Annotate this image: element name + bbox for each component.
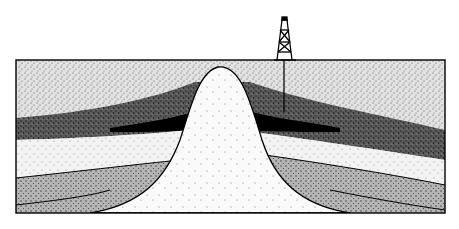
salt-dome-diagram: Salt dome oil trap cross-section <box>0 0 459 229</box>
oil-derrick-icon <box>274 17 296 60</box>
